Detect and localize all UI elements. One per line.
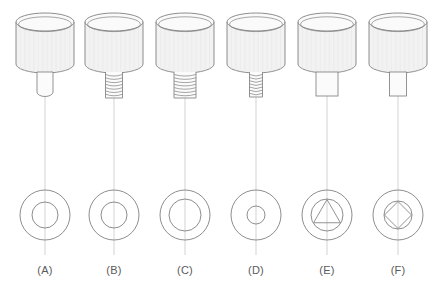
shank-E: [316, 72, 338, 96]
column-label-d: (D): [236, 264, 276, 276]
column-label-c: (C): [165, 264, 205, 276]
head-top-rim-D: [227, 13, 285, 31]
column-label-b: (B): [94, 264, 134, 276]
shank-F: [390, 72, 407, 96]
column-label-a: (A): [25, 264, 65, 276]
fastener-comparison-figure: (A)(B)(C)(D)(E)(F): [0, 0, 446, 291]
head-top-rim-B: [85, 13, 143, 31]
column-label-e: (E): [307, 264, 347, 276]
shank-A: [37, 72, 53, 97]
head-top-rim-F: [369, 13, 427, 31]
head-top-rim-C: [156, 13, 214, 31]
head-top-rim-E: [298, 13, 356, 31]
column-label-f: (F): [378, 264, 418, 276]
head-top-rim-A: [16, 13, 74, 31]
fastener-drawing-canvas: [0, 0, 446, 291]
